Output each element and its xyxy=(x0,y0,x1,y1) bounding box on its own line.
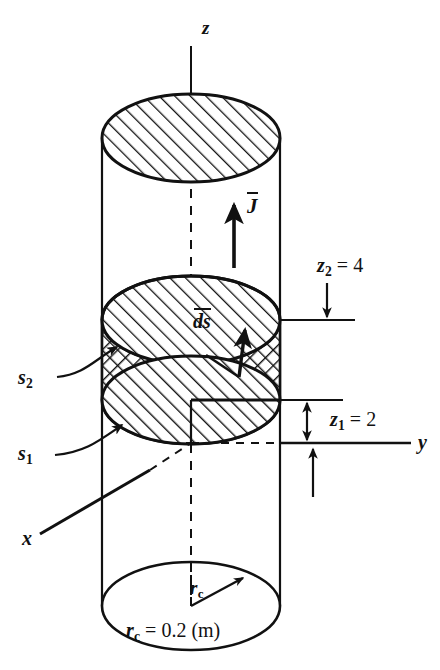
z1-dimension-label: z1 = 2 xyxy=(330,409,376,433)
surface-s1-label: s1 xyxy=(18,443,33,467)
diagram-svg xyxy=(0,0,440,670)
rc-symbol-label: rc xyxy=(190,578,203,601)
surface-s2-label: s2 xyxy=(18,367,33,391)
y-axis-label: y xyxy=(418,432,427,452)
x-axis-solid xyxy=(40,470,150,534)
current-density-label: J xyxy=(247,196,258,217)
s1-leader xyxy=(55,425,122,455)
z2-dimension xyxy=(280,283,355,320)
rc-value-label: rc = 0.2 (m) xyxy=(126,620,220,644)
figure-canvas: z J z2 = 4 ds s2 z1 = 2 y s1 x rc rc = 0… xyxy=(0,0,440,670)
cylinder-top-cap xyxy=(102,94,280,182)
x-axis-dashed xyxy=(150,443,191,470)
z2-dimension-label: z2 = 4 xyxy=(317,255,363,279)
z-axis-label: z xyxy=(202,18,209,37)
x-axis xyxy=(40,443,191,534)
x-axis-label: x xyxy=(22,528,32,548)
ds-vector-label: ds xyxy=(193,311,211,331)
